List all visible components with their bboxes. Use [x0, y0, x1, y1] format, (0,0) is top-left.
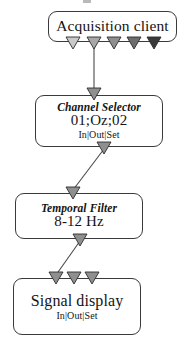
node-temporal-filter[interactable]: Temporal Filter 8-12 Hz — [15, 193, 143, 239]
node-title: Signal display — [31, 293, 124, 310]
node-channel-selector[interactable]: Channel Selector 01;Oz;02 In|Out|Set — [35, 95, 163, 147]
node-ports[interactable]: In|Out|Set — [78, 130, 119, 141]
node-ports[interactable]: In|Out|Set — [56, 311, 97, 322]
connector-temporal-to-signal[interactable] — [56, 241, 80, 275]
flow-diagram-canvas: Acquisition client Channel Selector 01;O… — [0, 0, 189, 358]
node-title: Acquisition client — [56, 18, 168, 34]
node-signal-display[interactable]: Signal display In|Out|Set — [13, 278, 141, 335]
node-value: 01;Oz;02 — [71, 113, 128, 129]
node-acquisition-client[interactable]: Acquisition client — [48, 11, 177, 42]
connector-channel-to-temporal[interactable] — [73, 149, 104, 190]
scan-artifact — [83, 0, 91, 3]
node-value: 8-12 Hz — [54, 214, 103, 230]
